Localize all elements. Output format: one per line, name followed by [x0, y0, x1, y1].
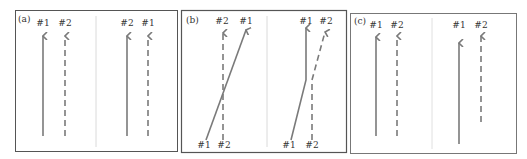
panel-a-border	[16, 11, 178, 152]
panel-c: (c) #1 #2 #1 #2	[351, 14, 517, 154]
panel-b-left-top-label-2: #1	[239, 16, 252, 26]
panel-a-label: (a)	[18, 14, 30, 24]
panel-a-right-top-label-1: #2	[120, 18, 133, 28]
panel-b-right-bottom-label-1: #1	[282, 140, 295, 150]
panel-b-right-dashed-arrow	[312, 32, 325, 140]
lane-diagram: (a) #1 #2 #2 #1 (b) #2 #1 #1 #2 #1 #2 #1…	[0, 0, 527, 159]
panel-b-left-top-label-1: #2	[215, 16, 228, 26]
panel-a: (a) #1 #2 #2 #1	[16, 11, 178, 152]
panel-b-label: (b)	[186, 15, 199, 25]
panel-b-right-solid-arrow	[291, 28, 306, 140]
panel-b: (b) #2 #1 #1 #2 #1 #2 #1 #2	[182, 11, 347, 153]
panel-b-left-bottom-label-1: #1	[197, 140, 210, 150]
panel-b-right-top-label-2: #2	[319, 16, 332, 26]
panel-c-label: (c)	[354, 16, 366, 26]
panel-c-left-top-label-2: #2	[390, 20, 403, 30]
panel-c-right-top-label-1: #1	[452, 20, 465, 30]
panel-a-right-top-label-2: #1	[141, 18, 154, 28]
panel-b-right-bottom-label-2: #2	[305, 140, 318, 150]
panel-c-left-top-label-1: #1	[369, 20, 382, 30]
panel-a-left-top-label-2: #2	[58, 18, 71, 28]
panel-a-left-top-label-1: #1	[36, 18, 49, 28]
panel-b-left-bottom-label-2: #2	[217, 140, 230, 150]
panel-b-left-solid-arrow	[206, 30, 246, 140]
panel-b-border	[182, 11, 347, 153]
panel-c-right-top-label-2: #2	[474, 20, 487, 30]
panel-b-right-top-label-1: #1	[299, 16, 312, 26]
